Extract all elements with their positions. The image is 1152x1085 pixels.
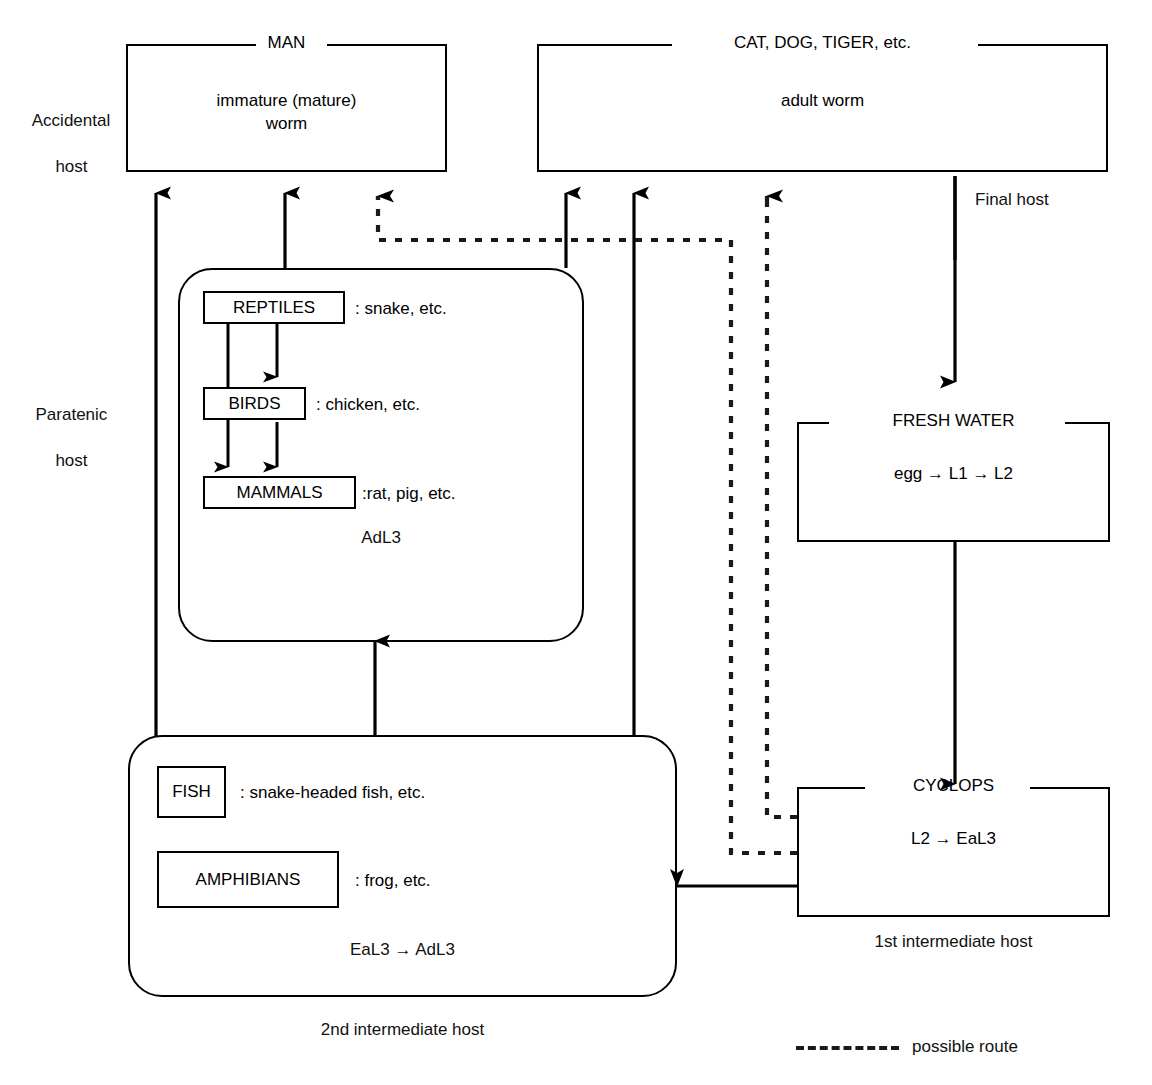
dashed-route-cyclops-to-carnivores bbox=[767, 196, 797, 817]
member-box-fish-label: FISH bbox=[172, 782, 211, 802]
member-box-reptiles-label: REPTILES bbox=[233, 298, 315, 318]
host-box-fresh-water-body: egg → L1 → L2 bbox=[799, 462, 1108, 485]
second-intermediate-role-label: 2nd intermediate host bbox=[128, 1018, 677, 1041]
final-host-label: Final host bbox=[975, 188, 1049, 211]
host-box-cyclops-body: L2 → EaL3 bbox=[799, 827, 1108, 850]
member-annotation-fish: : snake-headed fish, etc. bbox=[240, 783, 425, 803]
member-box-mammals-label: MAMMALS bbox=[237, 483, 323, 503]
host-box-carnivores: CAT, DOG, TIGER, etc. adult worm bbox=[537, 46, 1108, 172]
member-box-fish: FISH bbox=[157, 766, 226, 818]
host-box-carnivores-caption: CAT, DOG, TIGER, etc. bbox=[539, 33, 1106, 53]
member-box-reptiles: REPTILES bbox=[203, 291, 345, 324]
legend-dashed-line bbox=[796, 1046, 899, 1050]
first-intermediate-role-label: 1st intermediate host bbox=[797, 930, 1110, 953]
host-box-fresh-water-caption: FRESH WATER bbox=[799, 411, 1108, 431]
host-box-carnivores-body: adult worm bbox=[539, 89, 1106, 112]
second-intermediate-stage-label: EaL3 → AdL3 bbox=[128, 938, 677, 961]
accidental-host-label-line2: host bbox=[55, 157, 87, 176]
member-box-mammals: MAMMALS bbox=[203, 476, 356, 509]
member-box-amphibians: AMPHIBIANS bbox=[157, 851, 339, 908]
legend-label: possible route bbox=[912, 1035, 1018, 1058]
member-annotation-mammals: :rat, pig, etc. bbox=[362, 484, 456, 504]
member-box-birds: BIRDS bbox=[203, 387, 306, 420]
group-paratenic bbox=[178, 268, 584, 642]
member-annotation-reptiles: : snake, etc. bbox=[355, 299, 447, 319]
host-box-man-body: immature (mature) worm bbox=[128, 89, 445, 135]
host-box-man: MAN immature (mature) worm bbox=[126, 46, 447, 172]
member-box-birds-label: BIRDS bbox=[229, 394, 281, 414]
host-box-cyclops-caption: CYCLOPS bbox=[799, 776, 1108, 796]
paratenic-host-label-line1: Paratenic bbox=[36, 405, 108, 424]
member-box-amphibians-label: AMPHIBIANS bbox=[196, 870, 301, 890]
member-annotation-amphibians: : frog, etc. bbox=[355, 871, 431, 891]
member-annotation-birds: : chicken, etc. bbox=[316, 395, 420, 415]
host-box-cyclops: CYCLOPS L2 → EaL3 bbox=[797, 789, 1110, 917]
diagram-canvas: MAN immature (mature) worm CAT, DOG, TIG… bbox=[0, 0, 1152, 1085]
host-box-man-caption: MAN bbox=[128, 33, 445, 53]
accidental-host-label: Accidental host bbox=[6, 86, 118, 201]
paratenic-stage-label: AdL3 bbox=[178, 526, 584, 549]
host-box-fresh-water: FRESH WATER egg → L1 → L2 bbox=[797, 424, 1110, 542]
paratenic-host-label: Paratenic host bbox=[6, 380, 118, 495]
accidental-host-label-line1: Accidental bbox=[32, 111, 110, 130]
paratenic-host-label-line2: host bbox=[55, 451, 87, 470]
